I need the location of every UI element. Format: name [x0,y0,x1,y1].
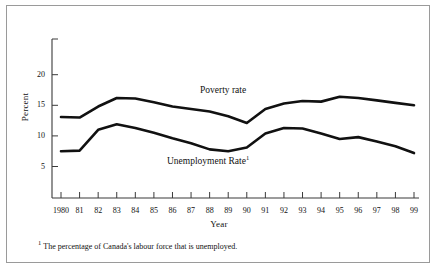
data-series-lines [61,97,414,153]
unemployment-rate-series-label: Unemployment Rate1 [167,154,249,166]
unemployment-footnote-marker: 1 [246,154,249,161]
plot-area: Percent Year Poverty rate Unemployment R… [7,6,431,264]
y-tick-label: 20 [23,70,45,79]
x-axis-ticks [61,192,414,198]
figure-frame: Percent Year Poverty rate Unemployment R… [6,5,430,263]
y-tick-label: 10 [23,131,45,140]
y-tick-label: 15 [23,100,45,109]
footnote-text: The percentage of Canada's labour force … [43,242,237,251]
x-tick-label: 99 [400,206,428,215]
poverty-rate-series-label: Poverty rate [200,85,246,95]
poverty-rate-line [61,97,414,123]
unemployment-rate-line [61,124,414,153]
footnote-marker: 1 [38,239,41,246]
footnote: 1The percentage of Canada's labour force… [38,239,408,252]
unemployment-rate-series-label-text: Unemployment Rate [167,156,246,166]
x-axis-title: Year [7,219,431,229]
y-tick-label: 5 [23,162,45,171]
y-axis-ticks [52,75,58,167]
